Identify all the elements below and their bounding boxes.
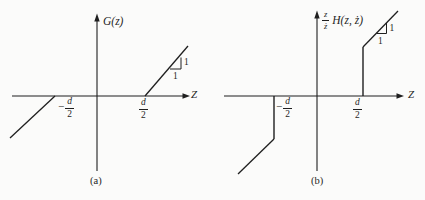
- minus-sign-a: −: [58, 101, 64, 112]
- y-axis-arrow-a: [94, 14, 99, 22]
- neg-breakpoint-label-a: − d 2: [58, 97, 74, 120]
- velocity-sign-fraction: z ż: [322, 10, 329, 31]
- pos-breakpoint-label-a: d 2: [139, 98, 148, 121]
- slope-run-label-b: 1: [378, 37, 383, 47]
- slope-run-label-a: 1: [173, 72, 178, 82]
- curve-a-right-segment: [145, 46, 188, 96]
- neg-fraction-b: d 2: [283, 97, 292, 120]
- neg-breakpoint-label-b: − d 2: [276, 97, 292, 120]
- x-axis-arrow-a: [183, 93, 191, 98]
- figure-canvas: G(z) Z − d 2 d 2 1 1 (a) z ż H(z, ż) Z −…: [0, 0, 425, 200]
- slope-rise-label-b: 1: [390, 24, 395, 34]
- caption-a: (a): [90, 176, 102, 187]
- x-axis-label-a: Z: [191, 89, 197, 100]
- x-axis-label-b: Z: [408, 89, 414, 100]
- slope-rise-label-a: 1: [184, 58, 189, 68]
- y-axis-arrow-b: [314, 11, 319, 19]
- slope-triangle-a: [170, 58, 181, 70]
- caption-b: (b): [311, 176, 323, 187]
- curve-a-left-segment: [10, 96, 55, 138]
- x-axis-arrow-b: [397, 93, 405, 98]
- y-axis-label-a: G(z): [103, 16, 123, 28]
- curve-b-left-segment: [238, 139, 274, 174]
- minus-sign-b: −: [276, 101, 282, 112]
- y-axis-label-b: z ż H(z, ż): [322, 10, 363, 31]
- h-function-label: H(z, ż): [332, 15, 363, 27]
- neg-fraction-a: d 2: [65, 97, 74, 120]
- pos-breakpoint-label-b: d 2: [353, 98, 362, 121]
